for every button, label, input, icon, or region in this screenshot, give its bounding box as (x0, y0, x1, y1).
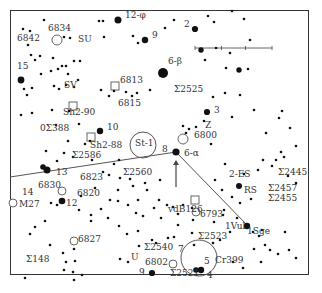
star-small (204, 59, 207, 62)
star-small (50, 70, 53, 73)
star-small (119, 177, 122, 180)
star-bright (198, 47, 203, 52)
star-label-S2540: Σ2540 (144, 243, 173, 252)
star-small (103, 36, 106, 39)
star-label-6834: 6834 (48, 24, 71, 33)
star-bright (142, 37, 148, 43)
star-label-7: 7 (178, 245, 184, 254)
star-small (49, 244, 52, 247)
star-small (193, 244, 196, 247)
star-small (231, 10, 234, 13)
star-label-14: 14 (22, 188, 33, 197)
star-small (77, 79, 80, 82)
star-small (125, 91, 128, 94)
star-small (131, 95, 134, 98)
star-label-6-alpha: 6-α (184, 149, 199, 158)
star-small (84, 143, 87, 146)
star-label-1Sge: 1Sge (247, 227, 270, 236)
star-label-Sh2-88: Sh2-88 (90, 141, 122, 150)
star-small (53, 85, 56, 88)
star-small (142, 215, 145, 218)
star-small (173, 19, 176, 22)
star-small (107, 217, 110, 220)
star-small (74, 260, 77, 263)
star-label-6802: 6802 (145, 258, 168, 267)
star-chart: 12-φ968346842SU26-β15SV6813Σ25256815Sh2-… (0, 0, 322, 293)
star-small (63, 152, 66, 155)
star-small (159, 179, 162, 182)
star-label-1Vul: 1Vul (225, 222, 245, 231)
star-small (231, 196, 234, 199)
nebula-square (191, 196, 199, 204)
star-label-2: 2 (184, 20, 190, 29)
star-label-6793: 6793 (200, 210, 223, 219)
star-small (45, 150, 48, 153)
star-small (119, 258, 122, 261)
star-small (253, 248, 256, 251)
star-label-S2525: Σ2525 (174, 85, 203, 94)
nebula-circle (178, 134, 188, 144)
star-small (136, 92, 139, 95)
star-small (236, 217, 239, 220)
star-small (277, 253, 280, 256)
star-small (149, 89, 152, 92)
star-bright (204, 109, 210, 115)
star-bright (236, 183, 242, 189)
star-small (271, 165, 274, 168)
star-label-Z: Z (205, 121, 211, 130)
star-small (40, 73, 43, 76)
nebula-square (111, 82, 119, 90)
star-small (58, 88, 61, 91)
star-small (117, 200, 120, 203)
star-label-3: 3 (214, 106, 220, 115)
nebula-circle (52, 35, 62, 45)
star-small (118, 159, 121, 162)
star-small (138, 245, 141, 248)
star-small (90, 220, 93, 223)
star-small (295, 145, 298, 148)
star-small (192, 219, 195, 222)
star-small (210, 143, 213, 146)
star-small (214, 179, 217, 182)
star-small (73, 60, 76, 63)
star-small (30, 54, 33, 57)
star-small (281, 110, 284, 113)
star-bright (158, 68, 168, 78)
star-small (29, 30, 32, 33)
star-label-OS388: 0Σ388 (40, 124, 69, 133)
star-small (132, 185, 135, 188)
star-label-S148: Σ148 (26, 255, 50, 264)
star-small (34, 59, 37, 62)
star-small (22, 28, 25, 31)
star-label-12-phi: 12-φ (125, 11, 146, 20)
star-small (212, 242, 215, 245)
star-label-2-ES: 2-ES (229, 170, 251, 179)
star-small (225, 67, 228, 70)
star-bright (59, 198, 66, 205)
star-label-6800: 6800 (194, 131, 217, 140)
star-small (127, 204, 130, 207)
star-label-RS: RS (244, 186, 257, 195)
star-bright (40, 164, 46, 170)
star-label-13: 13 (56, 168, 67, 177)
star-label-10: 10 (107, 123, 118, 132)
star-small (182, 125, 185, 128)
star-label-6813: 6813 (120, 76, 143, 85)
star-small (56, 204, 59, 207)
star-small (289, 127, 292, 130)
star-small (27, 44, 30, 47)
star-small (224, 92, 227, 95)
star-small (288, 249, 291, 252)
star-small (239, 94, 242, 97)
star-small (188, 128, 191, 131)
star-label-5: 5 (204, 257, 210, 266)
star-label-M27: M27 (19, 200, 40, 209)
star-small (284, 231, 287, 234)
star-small (50, 202, 53, 205)
arrow-head-icon (173, 160, 179, 165)
star-small (283, 156, 286, 159)
star-small (135, 212, 138, 215)
star-small (137, 42, 140, 45)
star-small (24, 277, 27, 280)
star-small (56, 160, 59, 163)
